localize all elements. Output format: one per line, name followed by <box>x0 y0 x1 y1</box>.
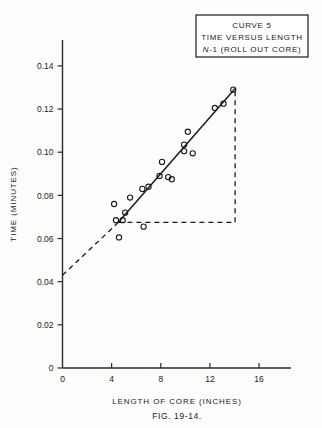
data-point <box>190 151 195 156</box>
data-point <box>141 224 146 229</box>
time-versus-length-scatter-chart: CURVE 5 TIME VERSUS LENGTH N-1 (ROLL OUT… <box>0 0 322 428</box>
x-tick-label-16: 16 <box>254 374 264 384</box>
data-point <box>159 159 164 164</box>
title-box: CURVE 5 TIME VERSUS LENGTH N-1 (ROLL OUT… <box>196 15 308 57</box>
data-points <box>111 87 235 240</box>
data-point <box>116 235 121 240</box>
y-tick-label-0.02: 0.02 <box>37 320 54 330</box>
title-box-core-rest: -1 (ROLL OUT CORE) <box>209 45 301 54</box>
figure-19-14: CURVE 5 TIME VERSUS LENGTH N-1 (ROLL OUT… <box>0 0 322 428</box>
y-tick-label-0.14: 0.14 <box>37 61 54 71</box>
y-tick-label-0.04: 0.04 <box>37 277 54 287</box>
y-tick-label-0.12: 0.12 <box>37 104 54 114</box>
title-box-line-core: N-1 (ROLL OUT CORE) <box>203 45 302 54</box>
data-point <box>140 186 145 191</box>
figure-caption: FIG. 19-14. <box>152 411 202 421</box>
y-tick-label-0.10: 0.10 <box>37 147 54 157</box>
x-tick-label-4: 4 <box>109 374 114 384</box>
y-tick-label-0: 0 <box>49 363 54 373</box>
extrapolation-dashed-line <box>63 222 119 275</box>
data-point <box>113 218 118 223</box>
y-tick-label-0.08: 0.08 <box>37 191 54 201</box>
chart-axes <box>63 40 292 368</box>
plot-series <box>63 87 236 275</box>
title-box-line-curve: CURVE 5 <box>232 21 271 30</box>
data-point <box>185 129 190 134</box>
x-tick-label-12: 12 <box>205 374 215 384</box>
data-point <box>127 195 132 200</box>
y-axis-ticks: 00.020.040.060.080.100.120.14 <box>37 61 63 373</box>
x-tick-label-8: 8 <box>158 374 163 384</box>
title-box-line-subject: TIME VERSUS LENGTH <box>201 33 303 42</box>
y-tick-label-0.06: 0.06 <box>37 234 54 244</box>
x-axis-ticks: 0481216 <box>60 363 264 384</box>
y-axis-title: TIME (MINUTES) <box>9 166 18 241</box>
x-tick-label-0: 0 <box>60 374 65 384</box>
data-point <box>111 201 116 206</box>
x-axis-title: LENGTH OF CORE (INCHES) <box>112 397 242 406</box>
data-point <box>212 105 217 110</box>
data-point <box>182 149 187 154</box>
